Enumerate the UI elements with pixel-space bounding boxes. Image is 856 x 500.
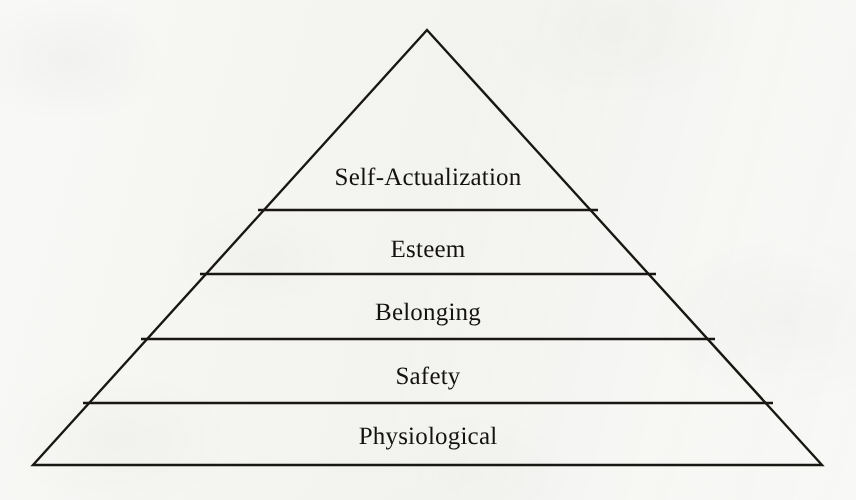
tier-label-safety: Safety [395,363,460,391]
tier-label-self-actualization: Self-Actualization [335,164,522,192]
tier-label-physiological: Physiological [359,423,498,451]
tier-label-esteem: Esteem [391,236,466,264]
pyramid-figure: Self-Actualization Esteem Belonging Safe… [0,0,856,500]
tier-label-belonging: Belonging [375,299,481,327]
